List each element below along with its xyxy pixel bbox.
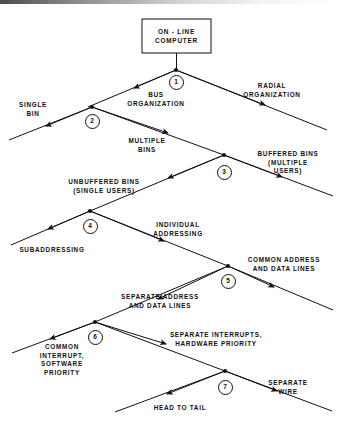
branch-label-separate-interrupts: SEPARATE INTERRUPTS, HARDWARE PRIORITY xyxy=(170,331,262,348)
junction-dot-1 xyxy=(174,68,178,72)
branch-label-unbuffered-bins: UNBUFFERED BINS (SINGLE USERS) xyxy=(68,178,140,195)
node-number-6: 6 xyxy=(88,330,103,345)
node-number-2: 2 xyxy=(85,114,100,129)
node-number-7: 7 xyxy=(218,380,233,395)
edge-subaddressing-tail xyxy=(11,211,90,245)
node-number-3: 3 xyxy=(217,165,232,180)
branch-label-bus-organization: BUS ORGANIZATION xyxy=(127,91,184,108)
branch-label-single-bin: SINGLE BIN xyxy=(19,101,47,118)
branch-label-buffered-bins: BUFFERED BINS (MULTIPLE USERS) xyxy=(258,150,319,176)
branch-label-individual-addressing: INDIVIDUAL ADDRESSING xyxy=(153,221,203,238)
diagram-canvas: ON - LINE COMPUTER 1234567 BUS ORGANIZAT… xyxy=(0,0,337,423)
node-number-5: 5 xyxy=(221,274,236,289)
edge-separate-interrupts xyxy=(95,322,166,344)
branch-label-multiple-bins: MULTIPLE BINS xyxy=(128,137,165,154)
junction-dot-7 xyxy=(223,369,227,373)
branch-label-common-address: COMMON ADDRESS AND DATA LINES xyxy=(248,256,320,273)
branch-label-radial-organization: RADIAL ORGANIZATION xyxy=(243,82,300,99)
node-number-1: 1 xyxy=(169,75,184,90)
branch-label-head-to-tail: HEAD TO TAIL xyxy=(154,404,207,413)
junction-dot-4 xyxy=(88,209,92,213)
edge-individual-addressing-tail xyxy=(90,211,228,266)
branch-label-separate-address: SEPARATE ADDRESS AND DATA LINES xyxy=(121,293,199,310)
node-number-4: 4 xyxy=(83,219,98,234)
edge-radial-organization-tail xyxy=(176,70,327,130)
junction-dot-5 xyxy=(226,264,230,268)
branch-label-subaddressing: SUBADDRESSING xyxy=(19,246,84,255)
root-box-label: ON - LINE COMPUTER xyxy=(142,19,211,53)
junction-dot-6 xyxy=(93,320,97,324)
branch-label-common-interrupt: COMMON INTERRUPT, SOFTWARE PRIORITY xyxy=(40,343,85,377)
junction-dot-3 xyxy=(222,153,226,157)
junction-dot-2 xyxy=(90,105,94,109)
branch-label-separate-wire: SEPARATE WIRE xyxy=(268,379,307,396)
